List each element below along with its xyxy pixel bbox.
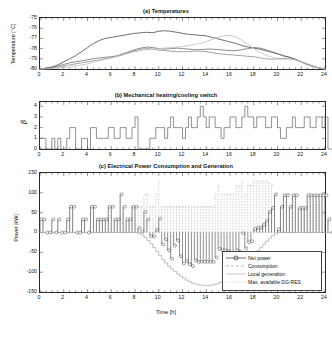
legend-sample-consumption <box>226 262 246 270</box>
x-tick-label: 4 <box>79 71 95 77</box>
x-tick-label: 0 <box>31 151 47 157</box>
x-tick-label: 12 <box>174 294 190 300</box>
x-tick-label: 16 <box>221 294 237 300</box>
panel-a-plot-canvas <box>40 18 325 69</box>
legend-item-consumption[interactable]: Consumption <box>226 262 318 270</box>
x-tick-label: 18 <box>245 151 261 157</box>
x-tick-label: 2 <box>55 71 71 77</box>
x-tick-label: 22 <box>292 151 308 157</box>
x-tick-label: 22 <box>292 294 308 300</box>
y-tick-label: -75 <box>13 14 37 20</box>
x-tick-label: 14 <box>197 71 213 77</box>
legend-label-net-power: Net power <box>248 255 271 261</box>
x-tick-label: 6 <box>102 71 118 77</box>
x-tick-label: 10 <box>150 294 166 300</box>
legend-item-max-dg-res[interactable]: Max. available DG-RES <box>226 278 318 286</box>
figure-root: (a) Temperatures Temperature [°C] -75-76… <box>0 0 332 341</box>
legend-item-net-power[interactable]: Net power <box>226 254 318 262</box>
legend-label-max-dg-res: Max. available DG-RES <box>248 279 301 285</box>
x-tick-label: 24 <box>316 294 332 300</box>
x-tick-label: 8 <box>126 71 142 77</box>
x-tick-label: 4 <box>79 151 95 157</box>
panel-c-xlabel: Time [h] <box>0 309 332 315</box>
y-tick-label: 3 <box>13 113 37 119</box>
x-tick-label: 6 <box>102 151 118 157</box>
y-tick-label: -78 <box>13 45 37 51</box>
legend-label-consumption: Consumption <box>248 263 277 269</box>
panel-c-power: (c) Electrical Power Consumption and Gen… <box>0 163 332 341</box>
legend-sample-local-generation <box>226 270 246 278</box>
x-tick-label: 20 <box>269 151 285 157</box>
panel-a-axes <box>39 17 326 70</box>
panel-b-title: (b) Mechanical heating/cooling switch <box>0 92 332 98</box>
x-tick-label: 12 <box>174 151 190 157</box>
legend-item-local-generation[interactable]: Local generation <box>226 270 318 278</box>
y-tick-label: -79 <box>13 55 37 61</box>
y-tick-label: 1 <box>13 134 37 140</box>
x-tick-label: 20 <box>269 71 285 77</box>
y-tick-label: 4 <box>13 102 37 108</box>
y-tick-label: -50 <box>13 248 37 254</box>
x-tick-label: 8 <box>126 151 142 157</box>
x-tick-label: 6 <box>102 294 118 300</box>
x-tick-label: 10 <box>150 71 166 77</box>
panel-a-title: (a) Temperatures <box>0 8 332 14</box>
x-tick-label: 16 <box>221 151 237 157</box>
x-tick-label: 14 <box>197 151 213 157</box>
y-tick-label: -100 <box>13 268 37 274</box>
x-tick-label: 14 <box>197 294 213 300</box>
panel-a-temperatures: (a) Temperatures Temperature [°C] -75-76… <box>0 8 332 94</box>
x-tick-label: 0 <box>31 294 47 300</box>
x-tick-label: 10 <box>150 151 166 157</box>
y-tick-label: -77 <box>13 34 37 40</box>
y-tick-label: 100 <box>13 189 37 195</box>
y-tick-label: 2 <box>13 124 37 130</box>
panel-c-title: (c) Electrical Power Consumption and Gen… <box>0 163 332 169</box>
x-tick-label: 24 <box>316 151 332 157</box>
x-tick-label: 12 <box>174 71 190 77</box>
y-tick-label: 150 <box>13 169 37 175</box>
x-tick-label: 20 <box>269 294 285 300</box>
panel-b-switch: (b) Mechanical heating/cooling switch β … <box>0 92 332 168</box>
legend-sample-net-power <box>226 254 246 262</box>
y-tick-label: -76 <box>13 24 37 30</box>
x-tick-label: 4 <box>79 294 95 300</box>
panel-b-axes <box>39 101 326 150</box>
x-tick-label: 18 <box>245 71 261 77</box>
legend-sample-max-dg-res <box>226 278 246 286</box>
legend-label-local-generation: Local generation <box>248 271 285 277</box>
x-tick-label: 8 <box>126 294 142 300</box>
x-tick-label: 2 <box>55 151 71 157</box>
panel-c-legend: Net power Consumption Local generation M… <box>222 251 322 291</box>
x-tick-label: 24 <box>316 71 332 77</box>
x-tick-label: 2 <box>55 294 71 300</box>
x-tick-label: 16 <box>221 71 237 77</box>
x-tick-label: 0 <box>31 71 47 77</box>
x-tick-label: 18 <box>245 294 261 300</box>
y-tick-label: 50 <box>13 209 37 215</box>
x-tick-label: 22 <box>292 71 308 77</box>
panel-b-plot-canvas <box>40 102 325 149</box>
y-tick-label: 0 <box>13 228 37 234</box>
